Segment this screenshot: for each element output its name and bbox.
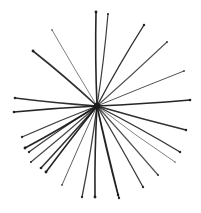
ink-tip xyxy=(51,29,53,31)
ink-ray xyxy=(33,51,97,106)
ink-ray xyxy=(97,14,108,106)
ink-tip xyxy=(185,129,188,132)
ink-tip xyxy=(118,197,120,199)
ink-ray xyxy=(97,106,186,130)
ink-ray xyxy=(97,42,167,106)
ink-tip xyxy=(143,24,146,27)
ink-tip xyxy=(157,174,159,176)
ink-tip xyxy=(179,151,182,154)
ink-tip xyxy=(183,70,185,72)
ink-ray xyxy=(96,12,97,106)
ink-ray xyxy=(97,100,190,106)
ink-tip xyxy=(142,186,144,188)
ink-tip xyxy=(13,111,16,114)
ink-tip xyxy=(81,196,83,198)
ink-tip xyxy=(40,167,43,170)
ink-tip xyxy=(14,97,17,100)
ink-ray xyxy=(97,106,158,175)
ink-tip xyxy=(95,11,98,14)
ink-tip xyxy=(189,99,192,102)
ink-ray xyxy=(52,30,97,106)
ink-tip xyxy=(32,50,35,53)
ink-tip xyxy=(61,184,63,186)
ink-tip xyxy=(21,136,23,138)
ink-tip xyxy=(24,147,27,150)
ink-ray xyxy=(97,25,144,106)
ink-ray xyxy=(31,106,97,162)
ink-tip xyxy=(107,13,109,15)
center-knot xyxy=(94,103,100,109)
ink-tip xyxy=(94,196,97,199)
ink-tip xyxy=(174,161,176,163)
ink-ray xyxy=(97,106,180,152)
ink-tip xyxy=(45,171,48,174)
starburst-drawing xyxy=(0,0,201,213)
ink-tip xyxy=(28,151,30,153)
starburst-svg xyxy=(0,0,201,213)
ink-ray xyxy=(15,98,97,106)
ink-ray xyxy=(97,71,184,106)
ink-tip xyxy=(30,161,32,163)
ink-tip xyxy=(166,41,168,43)
